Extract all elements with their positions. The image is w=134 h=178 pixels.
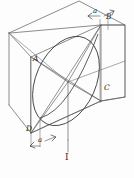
center-to-right-face	[68, 61, 125, 82]
vertex-label-C: C	[104, 84, 110, 92]
figure-caption-label: I	[65, 153, 69, 162]
rear-corner-to-center	[9, 33, 68, 82]
diagonal-B-to-center	[68, 25, 101, 82]
dim-a-bottom-leader-right	[45, 137, 55, 141]
vertex-label-B: B	[106, 13, 112, 21]
figure-container: A B C D a a I	[0, 0, 134, 178]
box-left-face-top-edge	[9, 33, 31, 57]
dimension-a-bottom	[30, 135, 56, 148]
vertex-label-A: A	[33, 55, 38, 63]
dimension-label-a-top: a	[93, 8, 97, 15]
dimension-label-a-bottom: a	[38, 137, 42, 144]
box-bottom-right-edge	[101, 97, 125, 101]
diagonal-D-to-center	[31, 82, 68, 133]
vertex-label-D: D	[26, 125, 32, 133]
